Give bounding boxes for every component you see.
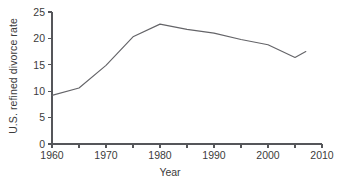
x-tick-label: 1970 [94,149,118,161]
y-tick-label: 10 [33,85,45,97]
y-tick-label: 25 [33,6,45,18]
x-tick-label: 2000 [256,149,280,161]
data-series-line [52,24,306,95]
y-tick-label: 0 [39,138,45,150]
x-tick-label: 1980 [148,149,172,161]
x-tick-labels: 196019701980199020002010 [40,149,334,161]
x-tick-label: 2010 [310,149,334,161]
x-tick-label: 1960 [40,149,64,161]
axis-spines [52,12,322,144]
y-tick-label: 5 [39,111,45,123]
divorce-rate-line-chart: U.S. refined divorce rate 0510152025 196… [0,0,340,190]
x-tick-marks [52,144,322,148]
y-tick-labels: 0510152025 [33,6,45,150]
y-tick-marks [48,12,52,144]
x-tick-label: 1990 [202,149,226,161]
plot-area: 0510152025 196019701980199020002010 [0,0,340,190]
y-tick-label: 15 [33,59,45,71]
x-axis-title: Year [0,166,340,178]
y-tick-label: 20 [33,32,45,44]
